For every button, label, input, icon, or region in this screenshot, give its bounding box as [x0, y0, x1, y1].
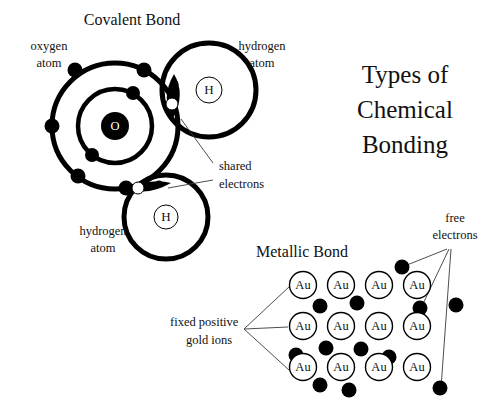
oxygen-inner-electron	[85, 148, 99, 162]
oxygen-outer-electron	[71, 169, 86, 184]
gold-ion-row: Au Au Au Au	[290, 354, 431, 381]
gold-ion-symbol: Au	[409, 360, 425, 374]
fixed-gold-ions-leader-3	[244, 329, 289, 370]
gold-ion-symbol: Au	[333, 278, 349, 292]
hydrogen-bottom-label-line-1: hydrogen	[79, 224, 127, 238]
fixed-gold-ions-label-line-1: fixed positive	[170, 315, 239, 329]
shared-electron-light	[132, 182, 144, 194]
shared-electron-light	[166, 98, 178, 110]
free-electrons-leader-3	[441, 249, 451, 388]
gold-ion-symbol: Au	[409, 319, 425, 333]
fixed-gold-ions-leader-1	[244, 286, 290, 329]
oxygen-label-line-2: atom	[37, 56, 62, 70]
metallic-bond-group: Metallic Bond free electrons fixed posit…	[170, 211, 478, 398]
shared-electrons-leader-top	[181, 119, 213, 163]
free-electron-layer-mid-1	[313, 296, 464, 316]
hydrogen-top-symbol: H	[204, 82, 213, 97]
metallic-bond-heading: Metallic Bond	[256, 243, 348, 260]
title-line-3: Bonding	[362, 131, 449, 158]
oxygen-label-line-1: oxygen	[31, 39, 69, 53]
free-electron	[449, 298, 464, 313]
fixed-gold-ions-callout: fixed positive gold ions	[170, 286, 290, 370]
oxygen-outer-electron	[45, 119, 60, 134]
fixed-gold-ions-leader-2	[244, 327, 288, 329]
hydrogen-bottom-label: hydrogen atom	[79, 224, 127, 255]
title-line-2: Chemical	[357, 96, 453, 123]
free-electron	[342, 383, 357, 398]
free-electrons-label-line-2: electrons	[432, 228, 477, 242]
oxygen-inner-electron	[126, 86, 140, 100]
shared-electron-pair-bottom	[127, 181, 171, 194]
gold-ion-symbol: Au	[295, 278, 311, 292]
covalent-bond-heading: Covalent Bond	[84, 11, 180, 28]
chemical-bonding-diagram: Types of Chemical Bonding Covalent Bond …	[0, 0, 493, 409]
fixed-gold-ions-label-line-2: gold ions	[186, 333, 232, 347]
oxygen-outer-electron	[68, 63, 83, 78]
hydrogen-bottom-symbol: H	[161, 209, 170, 224]
hydrogen-top-label: hydrogen atom	[238, 39, 286, 70]
free-electron	[350, 296, 365, 311]
gold-ion-symbol: Au	[371, 360, 387, 374]
free-electrons-label-line-1: free	[445, 211, 465, 225]
diagram-root: Types of Chemical Bonding Covalent Bond …	[0, 0, 493, 409]
gold-ion-symbol: Au	[371, 319, 387, 333]
oxygen-outer-electron	[137, 63, 152, 78]
gold-ion-symbol: Au	[409, 278, 425, 292]
free-electron	[313, 378, 328, 393]
gold-ion-row: Au Au Au Au	[290, 272, 431, 299]
oxygen-atom-label: oxygen atom	[31, 39, 69, 70]
gold-ion-symbol: Au	[333, 360, 349, 374]
page-title: Types of Chemical Bonding	[357, 61, 453, 158]
gold-ion-symbol: Au	[333, 319, 349, 333]
gold-ion-symbol: Au	[371, 278, 387, 292]
hydrogen-bottom-label-line-2: atom	[91, 241, 116, 255]
shared-electron-dark	[156, 181, 163, 188]
shared-electrons-label-line-1: shared	[219, 159, 252, 173]
shared-electron-dark	[172, 81, 179, 88]
free-electron	[433, 381, 448, 396]
hydrogen-top-label-line-1: hydrogen	[238, 39, 286, 53]
title-line-1: Types of	[362, 61, 449, 88]
gold-ion-symbol: Au	[295, 360, 311, 374]
oxygen-nucleus-symbol: O	[110, 119, 119, 133]
shared-electrons-label-line-2: electrons	[219, 177, 264, 191]
free-electron	[395, 260, 410, 275]
covalent-bond-group: Covalent Bond H H O	[31, 11, 287, 259]
free-electron	[319, 341, 334, 356]
free-electron	[354, 342, 369, 357]
hydrogen-top-label-line-2: atom	[250, 56, 275, 70]
free-electron	[313, 299, 328, 314]
gold-ion-row: Au Au Au Au	[290, 313, 431, 340]
gold-ion-symbol: Au	[295, 319, 311, 333]
